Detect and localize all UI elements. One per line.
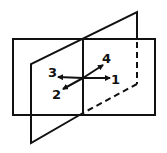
label-3: 3	[48, 65, 57, 80]
arrow-4	[83, 65, 103, 78]
intersecting-planes-diagram: 1 2 3 4	[0, 0, 167, 153]
label-4: 4	[102, 51, 111, 66]
label-1: 1	[111, 72, 120, 87]
arrow-3	[58, 77, 83, 78]
label-2: 2	[52, 87, 61, 102]
arrow-2	[63, 78, 83, 89]
